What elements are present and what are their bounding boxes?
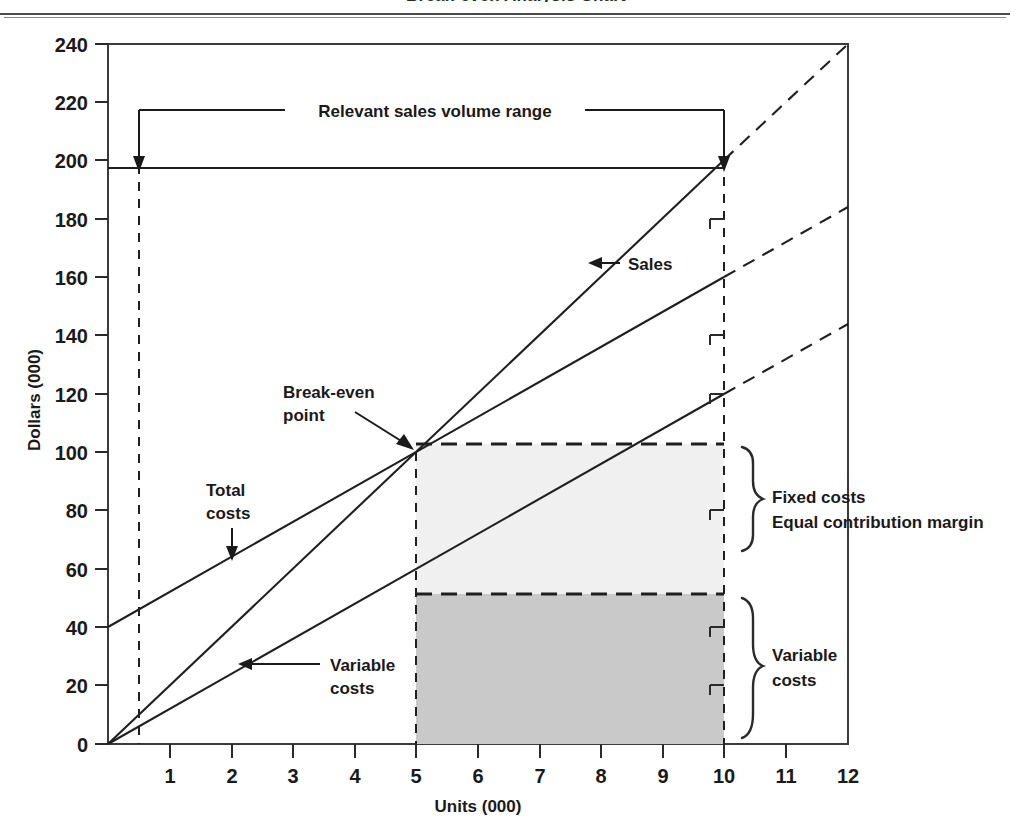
- variable-costs-right-line1: Variable: [772, 646, 837, 665]
- chart-canvas: 240 220 200 180 160 140 120 100 80 60 40…: [0, 0, 1032, 828]
- fixed-costs-label-line1: Fixed costs: [772, 488, 866, 507]
- relevant-range-annotation: Relevant sales volume range: [133, 102, 730, 172]
- xtick-1: 1: [164, 765, 175, 787]
- x-axis-title: Units (000): [435, 797, 522, 816]
- x-axis-ticks: [170, 744, 786, 758]
- xtick-8: 8: [595, 765, 606, 787]
- variable-costs-brace-group: Variable costs: [742, 598, 837, 738]
- y-axis-ticks: [95, 44, 108, 744]
- ytick-140: 140: [55, 325, 88, 347]
- ytick-100: 100: [55, 442, 88, 464]
- break-even-arrow: [396, 434, 414, 450]
- xtick-9: 9: [657, 765, 668, 787]
- y-axis-title: Dollars (000): [25, 349, 44, 451]
- xtick-11: 11: [775, 765, 796, 787]
- ytick-60: 60: [66, 559, 88, 581]
- variable-costs-right-line2: costs: [772, 671, 816, 690]
- xtick-3: 3: [287, 765, 298, 787]
- variable-costs-left-line2: costs: [330, 679, 374, 698]
- xtick-6: 6: [472, 765, 483, 787]
- total-costs-label-line1: Total: [206, 481, 245, 500]
- ytick-20: 20: [66, 675, 88, 697]
- xtick-2: 2: [226, 765, 237, 787]
- ytick-80: 80: [66, 500, 88, 522]
- break-even-annotation: Break-even point: [283, 383, 414, 450]
- x-axis-tick-labels: 1 2 3 4 5 6 7 8 9 10 11 12: [164, 765, 859, 787]
- xtick-5: 5: [410, 765, 421, 787]
- ytick-160: 160: [55, 267, 88, 289]
- variable-costs-left-annotation: Variable costs: [238, 656, 395, 698]
- fixed-costs-band: [416, 444, 724, 594]
- xtick-12: 12: [837, 765, 859, 787]
- variable-costs-left-line1: Variable: [330, 656, 395, 675]
- ytick-220: 220: [55, 92, 88, 114]
- ytick-120: 120: [55, 384, 88, 406]
- break-even-label-line1: Break-even: [283, 383, 375, 402]
- break-even-label-line2: point: [283, 406, 325, 425]
- break-even-chart-figure: Break-even Analysis Chart 240 220 200 18…: [0, 0, 1032, 828]
- sales-annotation: Sales: [588, 255, 672, 274]
- y-axis-tick-labels: 240 220 200 180 160 140 120 100 80 60 40…: [55, 34, 88, 756]
- fixed-costs-brace-group: Fixed costs Equal contribution margin: [742, 447, 984, 551]
- ytick-200: 200: [55, 150, 88, 172]
- ytick-240: 240: [55, 34, 88, 56]
- range-arrow-left: [133, 156, 145, 172]
- fixed-costs-label-line2: Equal contribution margin: [772, 513, 984, 532]
- total-costs-label-line2: costs: [206, 504, 250, 523]
- ytick-0: 0: [77, 734, 88, 756]
- relevant-range-label: Relevant sales volume range: [318, 102, 551, 121]
- ytick-180: 180: [55, 209, 88, 231]
- xtick-7: 7: [534, 765, 545, 787]
- ytick-40: 40: [66, 617, 88, 639]
- sales-arrow: [588, 257, 602, 269]
- xtick-10: 10: [713, 765, 735, 787]
- xtick-4: 4: [349, 765, 361, 787]
- sales-label: Sales: [628, 255, 672, 274]
- variable-costs-band: [416, 594, 724, 744]
